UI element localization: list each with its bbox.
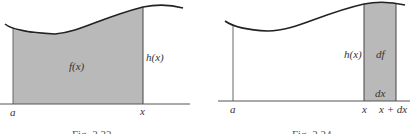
label-strip-df: df — [376, 49, 385, 60]
shaded-area-f — [13, 7, 143, 104]
caption-right: Fig. 2.34 — [292, 129, 331, 134]
label-area-f: f(x) — [69, 61, 84, 72]
label-height-h: h(x) — [146, 52, 164, 63]
label-a: a — [230, 104, 236, 115]
label-height-h: h(x) — [344, 49, 362, 60]
caption-left: Fig. 2.33 — [72, 129, 111, 134]
diagram-canvas — [0, 0, 413, 134]
label-a: a — [10, 107, 16, 118]
label-x-plus-dx: x + dx — [379, 104, 407, 115]
label-x: x — [140, 106, 145, 117]
label-strip-dx: dx — [375, 88, 385, 99]
label-x: x — [362, 104, 367, 115]
